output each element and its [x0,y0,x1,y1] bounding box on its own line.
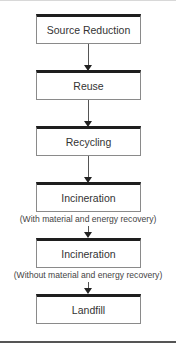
arrow-down-icon [87,100,90,127]
arrow-down-icon [87,226,90,238]
box-label: Incineration [61,192,115,204]
arrow-down-icon [87,44,90,71]
box-source-reduction: Source Reduction [36,14,141,44]
box-label: Source Reduction [47,24,130,36]
caption-without-recovery: (Without material and energy recovery) [0,270,176,280]
box-label: Recycling [66,136,112,148]
box-recycling: Recycling [36,126,141,156]
box-label: Incineration [61,248,115,260]
bottom-rule [0,341,176,343]
box-label: Reuse [73,80,103,92]
box-label: Landfill [72,304,105,316]
arrow-down-icon [87,282,90,294]
box-incineration-without-recovery: Incineration [36,238,141,268]
top-rule [0,0,176,1]
box-reuse: Reuse [36,70,141,100]
caption-with-recovery: (With material and energy recovery) [0,214,176,224]
box-incineration-with-recovery: Incineration [36,182,141,212]
box-landfill: Landfill [36,294,141,324]
arrow-down-icon [87,156,90,183]
